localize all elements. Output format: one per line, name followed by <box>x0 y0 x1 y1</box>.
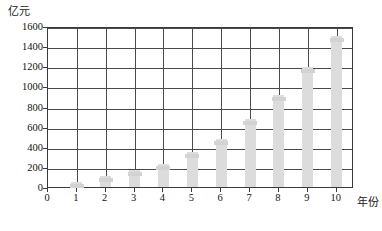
x-axis-tick-label: 3 <box>124 193 144 204</box>
bar-cap <box>70 184 84 188</box>
gridline-vertical <box>135 28 136 187</box>
bar <box>216 139 227 187</box>
y-axis-tick-label: 400 <box>27 143 43 154</box>
y-axis-tick-label: 600 <box>27 123 43 134</box>
gridline-vertical <box>77 28 78 187</box>
y-axis-tick-mark <box>43 108 47 109</box>
x-axis-tick-label: 5 <box>181 193 201 204</box>
bar-cap <box>243 121 257 125</box>
bar <box>331 36 342 187</box>
y-axis-unit-label: 亿元 <box>8 2 30 18</box>
bar-cap <box>301 69 315 73</box>
y-axis-tick-label: 1600 <box>22 22 43 33</box>
x-axis-tick-mark <box>105 188 106 192</box>
bar-cap <box>156 166 170 170</box>
x-axis-tick-label: 2 <box>95 193 115 204</box>
bar-cap <box>330 38 344 42</box>
bar-cap <box>272 97 286 101</box>
bar-cap <box>185 154 199 158</box>
x-axis-tick-mark <box>134 188 135 192</box>
x-axis-tick-mark <box>47 188 48 192</box>
bar-chart: 亿元 02004006008001000120014001600 0123456… <box>0 0 382 231</box>
x-axis-tick-mark <box>278 188 279 192</box>
bar-cap <box>99 178 113 182</box>
x-axis-tick-label: 7 <box>239 193 259 204</box>
x-axis-tick-label: 6 <box>210 193 230 204</box>
x-axis-name-label: 年份 <box>357 193 379 209</box>
x-axis-tick-mark <box>220 188 221 192</box>
bar <box>245 119 256 187</box>
bar <box>302 67 313 187</box>
x-axis-tick-label: 8 <box>268 193 288 204</box>
bar-cap <box>214 141 228 145</box>
y-axis-tick-mark <box>43 27 47 28</box>
gridline-vertical <box>106 28 107 187</box>
bar-cap <box>128 172 142 176</box>
y-axis-tick-mark <box>43 168 47 169</box>
y-axis-tick-label: 1000 <box>22 82 43 93</box>
y-axis-tick-mark <box>43 47 47 48</box>
x-axis-tick-label: 0 <box>37 193 57 204</box>
x-axis-tick-mark <box>162 188 163 192</box>
y-axis-tick-mark <box>43 87 47 88</box>
x-axis-tick-label: 4 <box>152 193 172 204</box>
x-axis-tick-label: 9 <box>297 193 317 204</box>
y-axis-tick-label: 200 <box>27 163 43 174</box>
y-axis-tick-mark <box>43 67 47 68</box>
y-axis-tick-mark <box>43 128 47 129</box>
x-axis-tick-mark <box>307 188 308 192</box>
y-axis-tick-label: 1400 <box>22 42 43 53</box>
gridline-horizontal <box>48 48 352 49</box>
y-axis-tick-mark <box>43 148 47 149</box>
gridline-horizontal <box>48 28 352 29</box>
x-axis-tick-mark <box>249 188 250 192</box>
x-axis-tick-label: 10 <box>326 193 346 204</box>
bar <box>273 95 284 187</box>
x-axis-tick-mark <box>336 188 337 192</box>
x-axis-tick-mark <box>76 188 77 192</box>
x-axis-tick-label: 1 <box>66 193 86 204</box>
x-axis-tick-mark <box>191 188 192 192</box>
y-axis-tick-label: 1200 <box>22 62 43 73</box>
plot-area <box>47 27 353 188</box>
y-axis-tick-label: 800 <box>27 103 43 114</box>
